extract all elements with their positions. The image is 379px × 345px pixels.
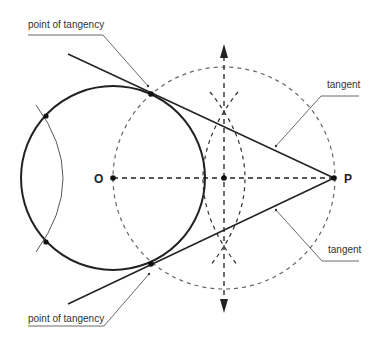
label-tangent-top: tangent [327, 79, 361, 90]
lens-arc-right [210, 92, 245, 266]
lens-arc-left [203, 92, 238, 266]
arc-intersection-bottom [43, 239, 48, 244]
tangent-line-bottom [68, 178, 334, 304]
point-P [331, 175, 337, 181]
label-point-of-tangency-bottom: point of tangency [28, 313, 104, 324]
midpoint [221, 175, 227, 181]
leader-top-tangency [28, 35, 148, 86]
leader-top-tangent [276, 96, 359, 146]
point-O [110, 175, 116, 181]
arrow-down-icon [220, 299, 228, 313]
tangency-point-bottom [148, 261, 154, 267]
tangent-line-top [68, 54, 334, 178]
tangent-construction-diagram: point of tangency point of tangency tang… [0, 0, 379, 345]
leader-dot [147, 85, 149, 87]
label-P: P [344, 172, 352, 186]
arc-intersection-top [43, 113, 48, 118]
label-point-of-tangency-top: point of tangency [28, 19, 104, 30]
left-construction-arc [36, 105, 63, 252]
arrow-up-icon [220, 44, 228, 58]
label-tangent-bottom: tangent [328, 244, 362, 255]
leader-dot [275, 145, 277, 147]
label-O: O [94, 172, 103, 186]
leader-dot [148, 273, 150, 275]
tangency-point-top [148, 91, 154, 97]
leader-dot [275, 209, 277, 211]
